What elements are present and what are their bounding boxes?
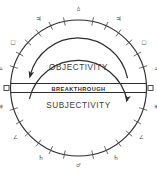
ring-glyph-g-top: ♁: [77, 6, 81, 12]
ring-glyph-g-lower-w: ∠: [13, 134, 18, 140]
ring-tick-10: [16, 52, 23, 56]
ring-glyph-g-lower-ee: ✳: [153, 103, 157, 111]
ring-glyph-g-lower-e: ∠: [139, 134, 144, 140]
ring-tick-20: [36, 140, 41, 147]
ring-glyph-g-lower-se: ♄: [113, 154, 119, 162]
ring-tick-14: [116, 140, 121, 147]
ring-glyph-g-upper-ee: ▵: [154, 64, 157, 72]
ring-glyph-g-upper-nw: ♃: [36, 15, 42, 23]
zone-label-subjectivity: SUBJECTIVITY: [46, 101, 110, 110]
breakthrough-label: BREAKTHROUGH: [51, 86, 105, 92]
ring-glyph-g-lower-sw: ♄: [38, 154, 44, 162]
ring-glyph-g-bottom: ♂: [76, 162, 81, 168]
ring-tick-4: [134, 52, 141, 56]
ring-tick-2: [116, 30, 121, 37]
ring-tick-8: [36, 30, 41, 37]
ring-glyph-g-upper-ne: ♃: [116, 15, 122, 23]
left-axis-node: [4, 86, 9, 91]
zone-label-objectivity: OBJECTIVITY: [49, 63, 108, 72]
flow-arrowhead-objectivity: [27, 70, 35, 79]
ring-glyph-g-upper-e: □: [141, 39, 146, 45]
ring-glyph-g-upper-ww: ▵: [0, 64, 3, 72]
ring-glyph-g-lower-ww: ✳: [0, 103, 4, 111]
ring-glyph-g-upper-w: □: [10, 39, 15, 45]
outer-arc-upper: [11, 20, 147, 88]
cycle-diagram: ♁♃♃□□▵▵✳✳∠∠♄♄♂ OBJECTIVITY SUBJECTIVITY …: [0, 0, 157, 175]
right-axis-node: [148, 86, 153, 91]
diagram-canvas: ♁♃♃□□▵▵✳✳∠∠♄♄♂ OBJECTIVITY SUBJECTIVITY …: [0, 0, 157, 175]
ring-tick-22: [16, 120, 23, 124]
flow-arrowhead-subjectivity: [123, 95, 130, 104]
ring-tick-16: [134, 120, 141, 124]
